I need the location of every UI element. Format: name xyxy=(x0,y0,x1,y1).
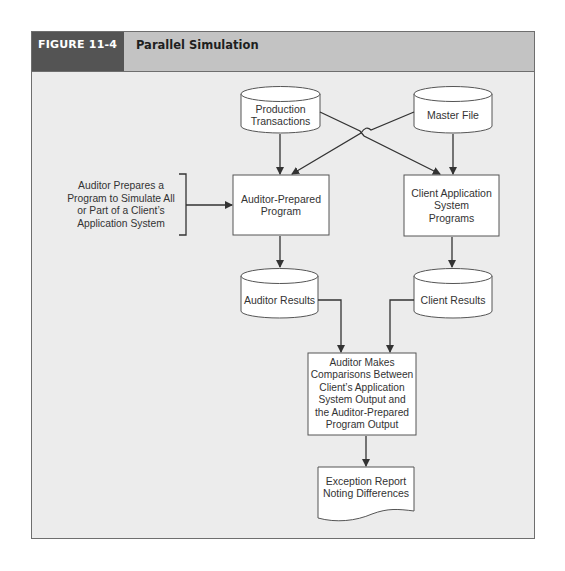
edge-auditor-results-to-comparison xyxy=(318,300,341,352)
client-programs-label: Client Application System Programs xyxy=(404,175,499,236)
master-file-label: Master File xyxy=(414,101,492,129)
edge-client-results-to-comparison xyxy=(390,300,414,352)
client-results-label: Client Results xyxy=(414,285,492,315)
exception-report-label: Exception Report Noting Differences xyxy=(318,470,414,504)
auditor-note-label: Auditor Prepares a Program to Simulate A… xyxy=(60,176,182,234)
comparison-label: Auditor Makes Comparisons Between Client… xyxy=(308,353,416,435)
auditor-results-label: Auditor Results xyxy=(241,285,318,315)
production-transactions-label: Production Transactions xyxy=(241,101,320,129)
auditor-program-label: Auditor-Prepared Program xyxy=(233,175,329,235)
